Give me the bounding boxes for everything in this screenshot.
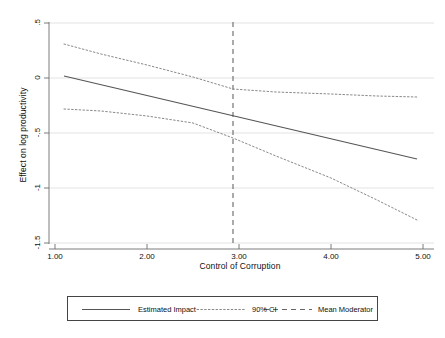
x-tick-label-3: 4.00 [311,252,351,261]
x-tick-label-1: 2.00 [127,252,167,261]
y-tick-label-3: -1 [33,175,42,201]
ci-upper-line [64,44,417,97]
plot-canvas [0,0,445,338]
gridlines [49,23,434,243]
x-axis-title: Control of Corruption [150,261,330,271]
y-tick-label-2: -.5 [33,120,42,146]
estimated-impact-line [64,76,417,159]
legend: Estimated Impact 90% CI Mean Moderator [67,296,378,321]
y-axis-title: Effect on log productivity [18,75,28,195]
y-axis [44,22,49,244]
y-tick-label-0: .5 [33,10,42,36]
legend-label-90-ci: 90% CI [252,305,277,314]
x-axis [49,244,434,249]
y-tick-label-1: 0 [33,65,42,91]
x-tick-label-0: 1.00 [35,252,75,261]
ci-lower-line [64,109,417,220]
legend-label-mean-moderator: Mean Moderator [318,305,373,314]
chart-figure: .5 0 -.5 -1 -1.5 1.00 2.00 3.00 4.00 5.0… [0,0,445,338]
x-tick-label-2: 3.00 [219,252,259,261]
legend-label-estimated-impact: Estimated Impact [138,305,196,314]
x-tick-label-4: 5.00 [403,252,443,261]
